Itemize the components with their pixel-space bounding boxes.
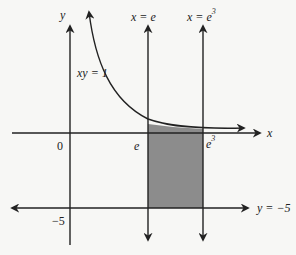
shaded-region [148,124,203,208]
curve-label: xy = 1 [77,67,108,79]
curve-xy-1 [89,12,244,128]
line-x-e3-label-exp: 3 [212,7,216,16]
origin-label: 0 [57,140,63,152]
line-x-e3-label: x = e3 [187,11,216,23]
tick-e3-label: e3 [206,138,215,150]
x-axis-label: x [267,127,272,139]
line-y-neg5-label: y = −5 [257,202,291,214]
y-axis-label: y [60,9,65,21]
line-x-e3-label-base: x = e [187,10,212,24]
diagram-canvas [0,0,296,255]
tick-e3-label-exp: 3 [211,134,215,143]
line-x-e-label: x = e [131,11,156,23]
tick-neg5-label: −5 [52,215,65,227]
tick-e-label: e [134,140,139,152]
